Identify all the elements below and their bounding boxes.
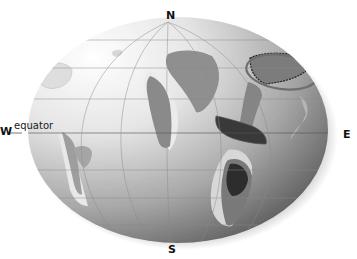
globe-map	[0, 0, 357, 259]
globe-surface	[28, 17, 328, 243]
equator-label: equator	[14, 120, 53, 131]
north-label: N	[166, 10, 175, 21]
east-label: E	[343, 129, 351, 140]
south-label: S	[168, 244, 176, 255]
west-label: W	[0, 126, 12, 137]
